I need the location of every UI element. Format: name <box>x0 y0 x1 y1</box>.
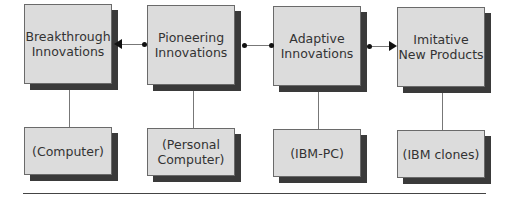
innovation-diagram: Breakthrough Innovations Pioneering Inno… <box>0 0 508 213</box>
connector-vertical-4 <box>442 93 443 130</box>
arrow-left-icon <box>114 39 122 49</box>
connector-dot <box>367 44 372 49</box>
connector-vertical-3 <box>318 92 319 129</box>
box-example-personal-computer: (Personal Computer) <box>147 128 235 176</box>
connector-vertical-1 <box>69 90 70 128</box>
connector-dot <box>269 43 274 48</box>
box-imitative-new-products: Imitative New Products <box>397 7 485 87</box>
connector-dot <box>242 43 247 48</box>
box-adaptive-innovations: Adaptive Innovations <box>273 6 361 86</box>
box-example-computer: (Computer) <box>24 127 112 175</box>
connector-pioneering-breakthrough <box>118 44 145 45</box>
connector-pioneering-adaptive <box>243 45 272 46</box>
connector-vertical-2 <box>193 91 194 128</box>
box-example-ibm-pc: (IBM-PC) <box>273 129 361 177</box>
box-pioneering-innovations: Pioneering Innovations <box>147 5 235 85</box>
arrow-right-icon <box>389 41 397 51</box>
box-example-ibm-clones: (IBM clones) <box>397 130 485 178</box>
box-breakthrough-innovations: Breakthrough Innovations <box>24 4 112 84</box>
divider-rule <box>23 193 486 194</box>
connector-dot <box>142 42 147 47</box>
